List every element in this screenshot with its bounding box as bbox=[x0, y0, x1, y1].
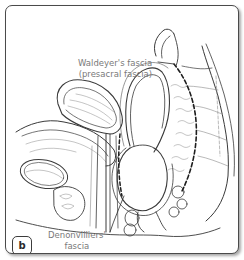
testis bbox=[54, 187, 85, 221]
mesorectal-fat bbox=[168, 85, 194, 172]
figure-frame: Waldeyer's fascia (presacral fascia) Den… bbox=[5, 5, 239, 254]
panel-label-badge: b bbox=[12, 236, 32, 254]
waldeyer-label-line1: Waldeyer's fascia bbox=[78, 58, 152, 69]
waldeyer-fascia-label: Waldeyer's fascia (presacral fascia) bbox=[78, 58, 152, 80]
sigmoid-colon bbox=[154, 29, 178, 66]
denonvilliers-leader-line bbox=[110, 196, 124, 232]
waldeyer-label-line2: (presacral fascia) bbox=[78, 69, 152, 80]
waldeyer-fascia-line bbox=[174, 64, 196, 191]
denonvilliers-label-line1: Denonvilliers' bbox=[48, 230, 106, 241]
denonvilliers-fascia-line bbox=[119, 134, 122, 196]
anal-sphincter bbox=[124, 186, 187, 236]
pelvis-sagittal-illustration bbox=[6, 6, 238, 253]
prostate-urethra bbox=[90, 134, 118, 232]
bladder bbox=[57, 80, 122, 134]
sacrum bbox=[182, 44, 234, 221]
denonvilliers-fascia-label: Denonvilliers' fascia bbox=[48, 230, 106, 252]
pubic-symphysis bbox=[16, 121, 116, 166]
denonvilliers-label-line2: fascia bbox=[48, 241, 106, 252]
rectal-ampulla bbox=[112, 145, 173, 216]
